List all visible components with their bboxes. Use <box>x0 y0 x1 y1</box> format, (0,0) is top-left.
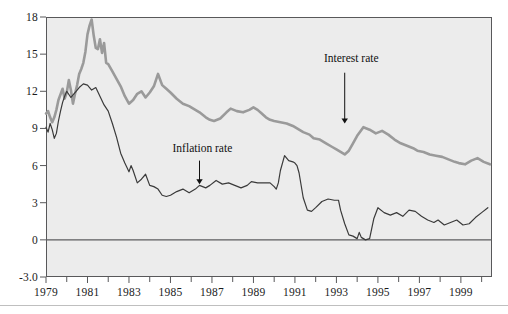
annotation-label-inflation-rate: Inflation rate <box>173 142 233 154</box>
y-tick-label: 9 <box>4 122 38 134</box>
annotation-label-interest-rate: Interest rate <box>324 52 379 64</box>
y-tick-label: 15 <box>4 48 38 60</box>
x-tick-label: 1983 <box>106 286 152 298</box>
footer-divider <box>0 305 508 306</box>
x-tick-label: 1989 <box>230 286 276 298</box>
x-tick-label: 1999 <box>438 286 484 298</box>
y-tick-label: -3.0 <box>4 271 38 283</box>
annotation-arrows <box>196 73 348 184</box>
x-tick-label: 1995 <box>355 286 401 298</box>
chart-canvas <box>0 0 508 314</box>
y-tick-label: 18 <box>4 11 38 23</box>
y-tick-label: 6 <box>4 160 38 172</box>
x-tick-label: 1979 <box>23 286 69 298</box>
x-tick-label: 1993 <box>313 286 359 298</box>
x-tick-label: 1997 <box>396 286 442 298</box>
figure-container: 1815129630-3.0 1979198119831985198719891… <box>0 0 508 314</box>
x-tick-label: 1991 <box>272 286 318 298</box>
x-tick-label: 1987 <box>189 286 235 298</box>
y-tick-label: 3 <box>4 197 38 209</box>
series-inflation-rate <box>46 84 488 240</box>
x-tick-label: 1985 <box>147 286 193 298</box>
y-tick-label: 12 <box>4 85 38 97</box>
x-tick-label: 1981 <box>64 286 110 298</box>
y-tick-label: 0 <box>4 234 38 246</box>
series-interest-rate <box>46 19 490 164</box>
